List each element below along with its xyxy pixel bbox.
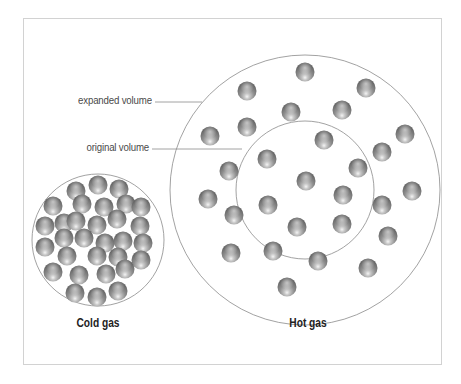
gas-particle (238, 118, 257, 137)
particle-highlight (36, 238, 55, 257)
particle-highlight (201, 127, 220, 146)
particle-highlight (315, 131, 334, 150)
gas-particle (131, 217, 150, 236)
particle-highlight (44, 197, 63, 216)
particle-highlight (379, 227, 398, 246)
particle-highlight (258, 150, 277, 169)
particle-highlight (89, 176, 108, 195)
gas-particle (66, 284, 85, 303)
particle-highlight (88, 288, 107, 307)
gas-particle (75, 229, 94, 248)
gas-particle (88, 288, 107, 307)
gas-particle (199, 190, 218, 209)
gas-particle (44, 197, 63, 216)
particle-highlight (199, 190, 218, 209)
particle-highlight (132, 251, 151, 270)
gas-particle (73, 195, 92, 214)
gas-particle (36, 217, 55, 236)
cold-gas-caption: Cold gas (76, 316, 119, 330)
original-volume-label: original volume (87, 141, 149, 153)
particle-highlight (238, 82, 257, 101)
gas-particle (70, 266, 89, 285)
gas-particle (396, 125, 415, 144)
gas-particle (297, 172, 316, 191)
gas-particle (44, 263, 63, 282)
gas-particle (334, 186, 353, 205)
gas-particle (282, 103, 301, 122)
particle-highlight (373, 143, 392, 162)
gas-particle (373, 143, 392, 162)
gas-particle (379, 227, 398, 246)
gas-particle (109, 282, 128, 301)
gas-particle (357, 79, 376, 98)
gas-particle (264, 242, 283, 261)
gas-particle (359, 259, 378, 278)
gas-particle (108, 210, 127, 229)
expanded-volume-label: expanded volume (78, 94, 152, 106)
gas-particle (333, 215, 352, 234)
gas-particle (201, 127, 220, 146)
particle-highlight (131, 217, 150, 236)
gas-particle (97, 265, 116, 284)
particle-highlight (73, 195, 92, 214)
hot-gas-particles (199, 63, 422, 297)
particle-highlight (238, 118, 257, 137)
particle-highlight (225, 206, 244, 225)
gas-particle (222, 244, 241, 263)
particle-highlight (359, 259, 378, 278)
gas-particle (315, 131, 334, 150)
particle-highlight (288, 218, 307, 237)
particle-highlight (220, 162, 239, 181)
particle-highlight (58, 247, 77, 266)
gas-particle (58, 247, 77, 266)
particle-highlight (333, 101, 352, 120)
particle-highlight (132, 198, 151, 217)
gas-expansion-diagram: expanded volume original volume Cold gas… (0, 0, 461, 384)
particle-highlight (309, 252, 328, 271)
particle-highlight (278, 278, 297, 297)
particle-highlight (349, 159, 368, 178)
gas-particle (132, 198, 151, 217)
cold-gas-particles (36, 176, 153, 307)
gas-particle (238, 82, 257, 101)
particle-highlight (134, 234, 153, 253)
particle-highlight (97, 265, 116, 284)
particle-highlight (297, 172, 316, 191)
gas-particle (132, 251, 151, 270)
particle-highlight (88, 247, 107, 266)
particle-highlight (44, 263, 63, 282)
particle-highlight (108, 210, 127, 229)
particle-highlight (67, 212, 86, 231)
gas-particle (373, 196, 392, 215)
gas-particle (89, 176, 108, 195)
gas-particle (225, 206, 244, 225)
gas-particle (88, 247, 107, 266)
particle-highlight (222, 244, 241, 263)
particle-highlight (75, 229, 94, 248)
particle-highlight (116, 260, 135, 279)
particle-highlight (264, 242, 283, 261)
gas-particle (55, 229, 74, 248)
gas-particle (403, 182, 422, 201)
gas-particle (309, 252, 328, 271)
gas-particle (220, 162, 239, 181)
particle-highlight (333, 215, 352, 234)
gas-particle (116, 260, 135, 279)
particle-highlight (66, 284, 85, 303)
particle-highlight (357, 79, 376, 98)
hot-gas-caption: Hot gas (289, 316, 326, 330)
gas-particle (288, 218, 307, 237)
particle-highlight (109, 282, 128, 301)
gas-particle (349, 159, 368, 178)
gas-particle (296, 63, 315, 82)
gas-particle (258, 150, 277, 169)
gas-particle (67, 212, 86, 231)
gas-particle (278, 278, 297, 297)
particle-highlight (259, 196, 278, 215)
particle-highlight (403, 182, 422, 201)
particle-highlight (36, 217, 55, 236)
gas-particle (134, 234, 153, 253)
particle-highlight (70, 266, 89, 285)
particle-highlight (334, 186, 353, 205)
diagram-canvas (0, 0, 461, 384)
